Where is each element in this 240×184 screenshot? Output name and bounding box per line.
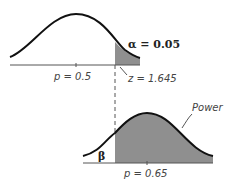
power-label: Power xyxy=(192,102,223,113)
top-mean-label: p = 0.5 xyxy=(53,71,91,82)
power-region xyxy=(115,113,213,163)
bottom-mean-label: p = 0.65 xyxy=(123,168,167,179)
z-pointer xyxy=(120,67,127,75)
beta-label: β xyxy=(98,150,105,163)
critical-value-label: z = 1.645 xyxy=(127,73,177,84)
power-pointer xyxy=(182,114,192,128)
power-diagram: α = 0.05 p = 0.5 z = 1.645 β Power p = 0… xyxy=(0,0,240,184)
alpha-label: α = 0.05 xyxy=(128,38,180,51)
